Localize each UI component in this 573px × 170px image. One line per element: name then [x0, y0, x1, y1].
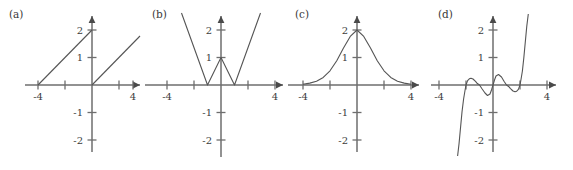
x-ticklabel-pos4: 4: [272, 91, 278, 102]
panel-c: (c) -4 4 2 1 -1 -2: [286, 0, 429, 170]
curve-left-branch: [38, 30, 92, 85]
x-axis-arrowhead-icon: [276, 82, 283, 89]
x-axis-arrowhead-icon: [412, 82, 419, 89]
y-ticklabel-neg2: -2: [73, 135, 83, 146]
panel-d-plot: -4 4 2 1 -1 -2: [429, 0, 573, 170]
y-ticklabel-neg1: -1: [202, 107, 212, 118]
y-axis-arrowhead-icon: [490, 16, 497, 23]
y-ticklabel-neg2: -2: [338, 135, 348, 146]
y-ticklabel-neg1: -1: [474, 107, 484, 118]
y-ticklabel-neg1: -1: [338, 107, 348, 118]
x-axis-arrowhead-icon: [133, 82, 140, 89]
y-ticklabel-pos1: 1: [77, 52, 83, 63]
y-ticklabel-pos1: 1: [206, 52, 212, 63]
y-ticklabel-pos2: 2: [206, 25, 212, 36]
y-axis-arrowhead-icon: [89, 16, 96, 23]
x-ticklabel-neg4: -4: [434, 91, 444, 102]
y-ticklabel-neg1: -1: [73, 107, 83, 118]
figure-four-panel-graphs: (a) -4 4 2 1 -1 -2: [0, 0, 573, 170]
panel-b: (b) -4 4 2 1 -1 -2: [143, 0, 286, 170]
x-ticklabel-neg4: -4: [33, 91, 43, 102]
panel-b-plot: -4 4 2 1 -1 -2: [143, 0, 286, 170]
y-ticklabel-pos2: 2: [342, 25, 348, 36]
x-ticklabel-neg4: -4: [162, 91, 172, 102]
y-ticklabel-pos2: 2: [77, 25, 83, 36]
x-ticklabel-pos4: 4: [544, 91, 550, 102]
x-ticklabel-pos4: 4: [408, 91, 414, 102]
y-axis-arrowhead-icon: [354, 16, 361, 23]
y-ticklabel-pos1: 1: [478, 52, 484, 63]
x-ticklabel-pos4: 4: [130, 91, 136, 102]
y-ticklabel-neg2: -2: [202, 135, 212, 146]
y-ticklabel-neg2: -2: [474, 135, 484, 146]
panel-d: (d) -4 4 2 1 -1 -2: [429, 0, 572, 170]
curve-right-branch: [92, 36, 140, 85]
x-ticklabel-neg4: -4: [298, 91, 308, 102]
panel-a-plot: -4 4 2 1 -1 -2: [0, 0, 143, 170]
panel-c-plot: -4 4 2 1 -1 -2: [286, 0, 429, 170]
y-axis-arrowhead-icon: [218, 16, 225, 23]
y-ticklabel-pos1: 1: [342, 52, 348, 63]
panel-a: (a) -4 4 2 1 -1 -2: [0, 0, 143, 170]
x-axis-arrowhead-icon: [549, 82, 556, 89]
y-ticklabel-pos2: 2: [478, 25, 484, 36]
